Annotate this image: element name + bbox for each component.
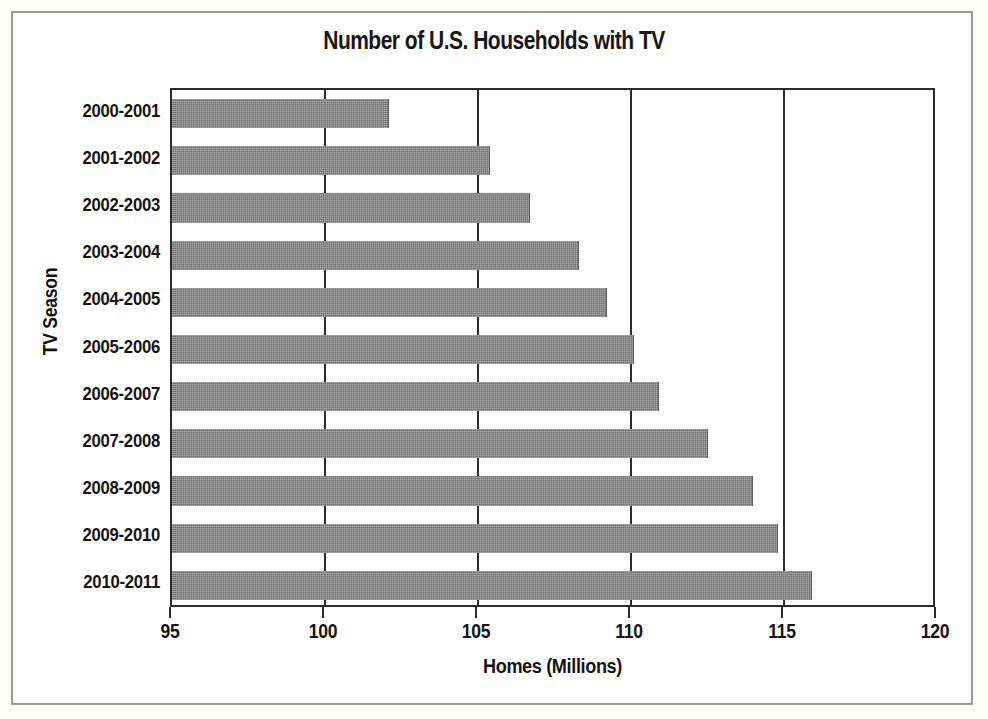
x-axis-tick <box>781 607 783 618</box>
chart-title: Number of U.S. Households with TV <box>79 26 909 55</box>
bar <box>172 288 607 317</box>
bar <box>172 382 659 411</box>
y-axis-tick-label: 2001-2002 <box>28 147 160 169</box>
bar <box>172 146 490 175</box>
y-axis-tick-label: 2002-2003 <box>28 194 160 216</box>
x-axis-tick-label: 105 <box>441 620 511 643</box>
x-axis-tick <box>322 607 324 618</box>
x-axis-tick <box>169 607 171 618</box>
x-axis-tick-label: 110 <box>594 620 664 643</box>
y-axis-tick-label: 2010-2011 <box>28 571 160 593</box>
y-axis-tick-label: 2000-2001 <box>28 100 160 122</box>
y-axis-tick-label: 2007-2008 <box>28 430 160 452</box>
y-axis-tick-label: 2005-2006 <box>28 336 160 358</box>
bar <box>172 241 579 270</box>
x-axis-tick-label: 95 <box>135 620 205 643</box>
x-axis-tick <box>475 607 477 618</box>
plot-area <box>170 88 935 607</box>
bar <box>172 335 634 364</box>
x-axis-tick-label: 100 <box>288 620 358 643</box>
x-axis-tick-label: 120 <box>900 620 970 643</box>
y-axis-tick-label: 2009-2010 <box>28 524 160 546</box>
bar <box>172 476 753 505</box>
bar <box>172 99 389 128</box>
x-axis-tick <box>628 607 630 618</box>
x-axis-title: Homes (Millions) <box>224 654 882 678</box>
bar-series <box>172 90 933 605</box>
x-axis-tick-label: 115 <box>747 620 817 643</box>
bar <box>172 524 778 553</box>
x-axis-tick-labels: 95100105110115120 <box>170 620 935 650</box>
y-axis-tick-label: 2006-2007 <box>28 383 160 405</box>
x-axis-ticks <box>170 607 935 619</box>
x-axis-tick <box>934 607 936 618</box>
bar <box>172 193 530 222</box>
y-axis-tick-label: 2003-2004 <box>28 241 160 263</box>
y-axis-tick-labels: 2000-20012001-20022002-20032003-20042004… <box>0 88 160 607</box>
bar <box>172 571 812 600</box>
y-axis-tick-label: 2008-2009 <box>28 477 160 499</box>
y-axis-tick-label: 2004-2005 <box>28 288 160 310</box>
bar <box>172 429 708 458</box>
chart-page: Number of U.S. Households with TV TV Sea… <box>0 0 988 719</box>
